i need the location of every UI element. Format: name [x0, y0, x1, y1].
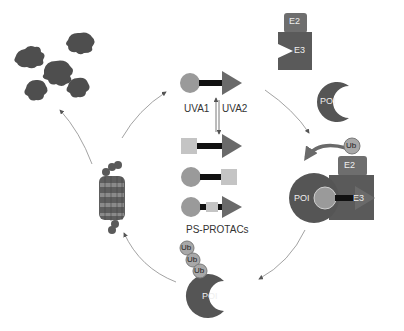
ub-label-complex: Ub: [346, 141, 356, 150]
e3-label-complex: E3: [353, 193, 364, 203]
arrow-proteasome-to-fragments: [60, 110, 92, 164]
proteasome: [99, 161, 125, 234]
fragment-3: [43, 61, 73, 86]
arrow-center-to-right: [265, 90, 309, 133]
fragment-2: [66, 33, 95, 55]
peptide-fragments: [14, 33, 94, 101]
arrow-bottom-to-proteasome: [124, 233, 176, 282]
uva1-label: UVA1: [184, 103, 209, 114]
uva2-label: UVA2: [222, 103, 247, 114]
e2-label-complex: E2: [344, 160, 355, 170]
ps-protacs-label: PS-PROTACs: [186, 224, 249, 235]
poi-label-free: POI: [320, 96, 336, 106]
protac-active: [180, 71, 242, 95]
protac-variant-square-triangle: [181, 134, 242, 158]
ternary-complex: [289, 138, 375, 223]
e2-label-free: E2: [289, 16, 300, 26]
photoswitch-arrows: [216, 98, 219, 134]
ub-label-3: Ub: [194, 266, 204, 275]
ub-label-2: Ub: [187, 255, 197, 264]
e3-label-free: E3: [294, 45, 305, 55]
fragment-4: [24, 80, 47, 101]
fragment-1: [14, 46, 44, 68]
protac-variant-circle-square: [181, 167, 237, 187]
arrow-right-to-bottom: [259, 230, 305, 279]
poi-ubiquitinated: [180, 241, 224, 318]
ub-label-1: Ub: [181, 243, 191, 252]
arrow-proteasome-to-center: [122, 92, 166, 138]
poi-label-ubiquitinated: POI: [202, 291, 218, 301]
protac-variant-circle-switch-triangle: [181, 196, 242, 218]
ub-transfer-arrow: [306, 146, 346, 158]
protac-cycle-diagram: UVA1 UVA2 PS-PROTACs E2 E3 POI Ub E2 E3 …: [0, 0, 404, 331]
poi-label-complex: POI: [294, 193, 310, 203]
